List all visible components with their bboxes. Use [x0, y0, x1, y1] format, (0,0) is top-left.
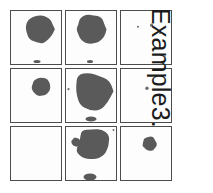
panel-image-r1c1 — [11, 11, 61, 64]
figure-caption: Example3. — [144, 8, 176, 138]
panel-r3c2[interactable] — [65, 126, 117, 181]
panel-image-r3c2 — [66, 127, 116, 180]
panel-image-r2c2 — [66, 69, 116, 122]
panel-image-r3c1 — [11, 127, 61, 180]
panel-r2c1[interactable] — [10, 68, 62, 123]
panel-r3c1[interactable] — [10, 126, 62, 181]
panel-r1c2[interactable] — [65, 10, 117, 65]
panel-r1c1[interactable] — [10, 10, 62, 65]
panel-r2c2[interactable] — [65, 68, 117, 123]
figure-example3: Example3. — [0, 0, 213, 193]
panel-image-r2c1 — [11, 69, 61, 122]
panel-image-r1c2 — [66, 11, 116, 64]
